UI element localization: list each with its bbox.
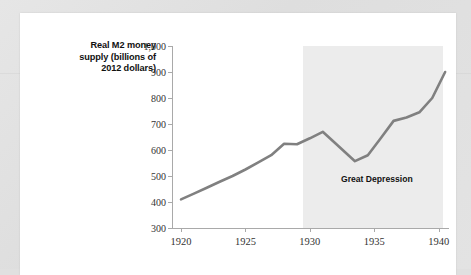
y-axis-title-line-1: Real M2 money bbox=[38, 40, 156, 52]
y-axis-title: Real M2 money supply (billions of 2012 d… bbox=[38, 40, 156, 75]
y-tick-label: 1,000 bbox=[144, 41, 167, 52]
x-tick-label: 1940 bbox=[428, 236, 449, 247]
y-axis-title-line-3: 2012 dollars) bbox=[38, 63, 156, 75]
x-tick-mark bbox=[439, 228, 440, 232]
y-tick-label: 300 bbox=[151, 223, 166, 234]
y-tick-label: 700 bbox=[151, 119, 166, 130]
chart-figure: Real M2 money supply (billions of 2012 d… bbox=[20, 13, 456, 275]
data-line-series bbox=[172, 46, 430, 241]
y-axis-title-line-2: supply (billions of bbox=[38, 52, 156, 64]
plot-area: 3004005006007008009001,000 1920192519301… bbox=[172, 46, 430, 241]
y-tick-label: 600 bbox=[151, 145, 166, 156]
figure-card: Real M2 money supply (billions of 2012 d… bbox=[20, 13, 456, 275]
y-tick-label: 400 bbox=[151, 197, 166, 208]
y-tick-label: 500 bbox=[151, 171, 166, 182]
y-tick-label: 800 bbox=[151, 93, 166, 104]
y-tick-label: 900 bbox=[151, 67, 166, 78]
great-depression-annotation: Great Depression bbox=[341, 174, 413, 184]
